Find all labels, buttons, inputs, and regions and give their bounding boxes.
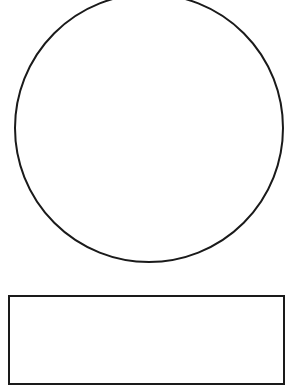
rectangle-shape bbox=[8, 295, 285, 385]
circle-shape bbox=[14, 0, 284, 263]
